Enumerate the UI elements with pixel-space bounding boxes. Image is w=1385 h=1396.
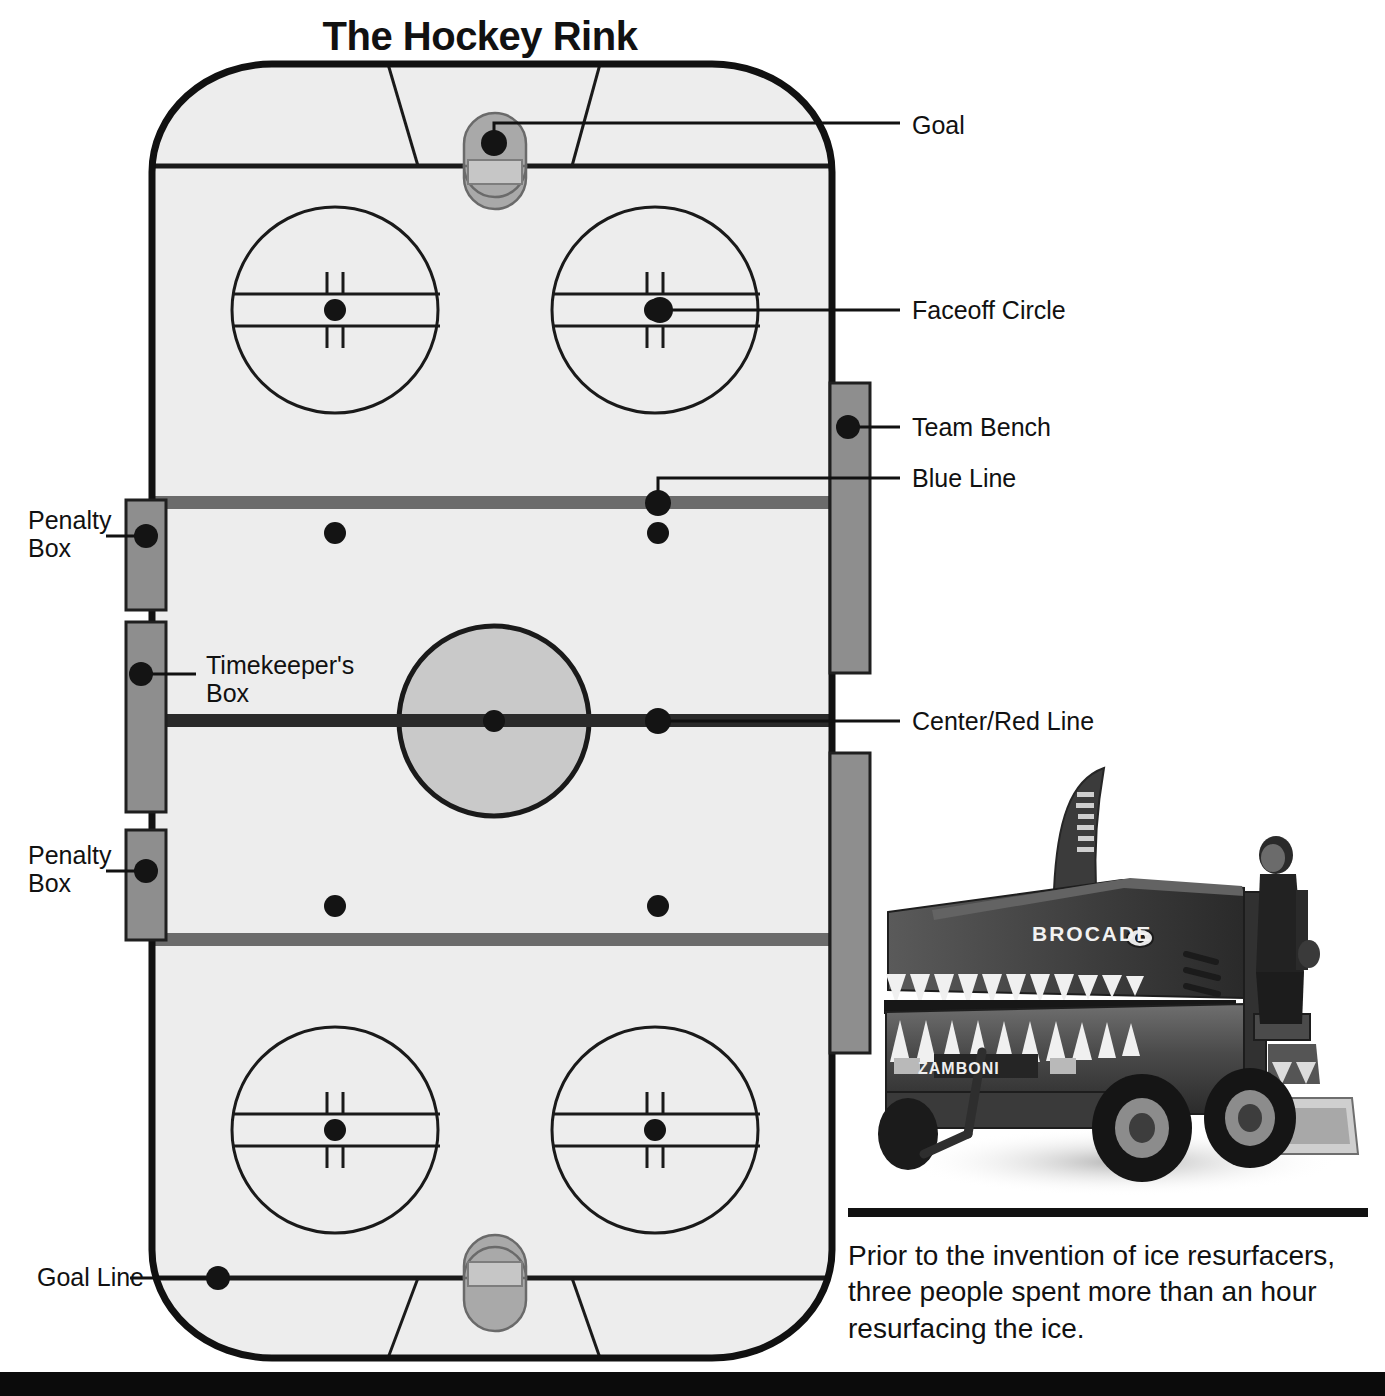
neutral-dot-upper-right <box>647 522 669 544</box>
penalty-box-upper <box>126 500 166 610</box>
callout-dot-team-bench <box>836 415 860 439</box>
blue-line-bottom <box>152 933 832 946</box>
headlight-right <box>1050 1058 1076 1074</box>
caption-text: Prior to the invention of ice resurfacer… <box>848 1238 1368 1347</box>
callout-dot-goal-line <box>206 1266 230 1290</box>
callout-dot-center-red-line <box>645 708 671 734</box>
label-goal-line: Goal Line <box>37 1263 144 1291</box>
center-ice-dot <box>483 710 505 732</box>
headlight-left <box>894 1058 920 1074</box>
blue-line-top <box>152 496 832 509</box>
callout-dot-goal <box>481 130 507 156</box>
label-center-red-line: Center/Red Line <box>912 707 1094 735</box>
wheel-far-left <box>878 1098 938 1170</box>
operator-figure <box>1256 836 1320 1024</box>
caption-rule <box>848 1208 1368 1217</box>
neutral-dot-lower-left <box>324 895 346 917</box>
callout-dot-blue-line <box>645 490 671 516</box>
callout-dot-penalty-box-lower <box>134 859 158 883</box>
timekeepers-box <box>126 622 166 812</box>
sponsor-text-brocade: BROCADE <box>1032 922 1152 946</box>
label-penalty-box-lower: Penalty Box <box>28 841 111 897</box>
callout-dot-penalty-box-upper <box>134 524 158 548</box>
label-penalty-box-upper: Penalty Box <box>28 506 111 562</box>
page-footer-bar <box>0 1372 1385 1396</box>
team-bench-lower <box>830 753 870 1053</box>
wheel-front <box>1092 1074 1192 1182</box>
label-timekeepers-box: Timekeeper's Box <box>206 651 354 707</box>
label-faceoff-circle: Faceoff Circle <box>912 296 1066 324</box>
label-blue-line: Blue Line <box>912 464 1016 492</box>
goal-net-bottom <box>468 1262 522 1286</box>
label-goal: Goal <box>912 111 965 139</box>
goal-net-top <box>468 160 522 184</box>
callout-dot-faceoff-circle <box>647 297 673 323</box>
neutral-dot-upper-left <box>324 522 346 544</box>
brand-text-zamboni: ZAMBONI <box>918 1060 1000 1078</box>
wheel-rear <box>1204 1068 1296 1168</box>
callout-dot-timekeepers-box <box>129 662 153 686</box>
hockey-rink-infographic: The Hockey Rink <box>0 0 1385 1396</box>
label-team-bench: Team Bench <box>912 413 1051 441</box>
penalty-box-lower <box>126 830 166 940</box>
ice-resurfacer-photo: BROCADE ZAMBONI <box>872 762 1362 1202</box>
neutral-dot-lower-right <box>647 895 669 917</box>
